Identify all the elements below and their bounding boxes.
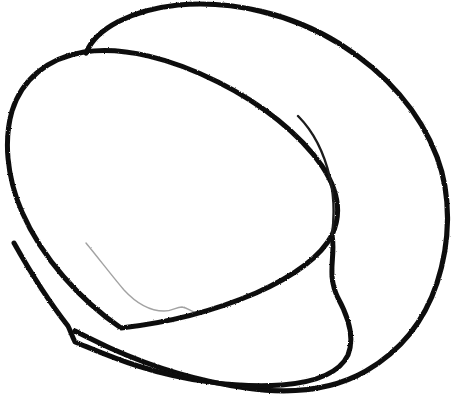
sketch-canvas [0, 0, 452, 402]
sketch-svg-surface [0, 0, 452, 402]
paper-background [0, 0, 452, 402]
